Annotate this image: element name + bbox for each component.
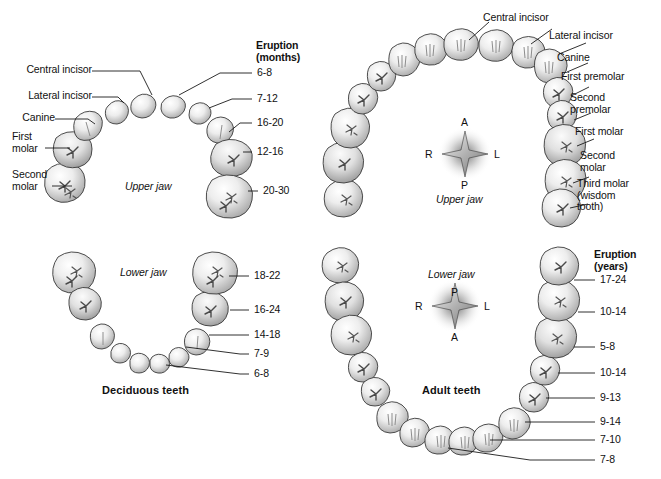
tooth-deciduous-upper-right-second-molar [206, 175, 252, 218]
deciduous-upper-label-first-molar: First molar [12, 131, 72, 154]
deciduous-upper-label-canine: Canine [0, 112, 55, 124]
tooth-adult-upper-left-canine [389, 43, 420, 76]
adult-upper-label-canine: Canine [557, 52, 590, 64]
tooth-adult-lower-left-first-molar [331, 315, 372, 355]
deciduous-lower-eruption-value-1: 18-22 [254, 270, 280, 282]
tooth-adult-lower-left-second-molar [325, 282, 364, 321]
tooth-adult-upper-left-lateral-incisor [415, 34, 447, 65]
compass-upper-left-label: L [494, 148, 500, 160]
adult-upper-leaders [469, 22, 594, 208]
compass-lower-left-label: L [484, 300, 490, 312]
deciduous-upper-label-second-molar: Second molar [12, 169, 74, 192]
adult-eruption-header-line2: (years) [594, 261, 628, 273]
tooth-adult-lower-right-central-incisor [449, 427, 478, 455]
tooth-deciduous-upper-left-lateral-incisor [105, 101, 128, 124]
tooth-deciduous-upper-left-central-incisor [131, 94, 156, 118]
deciduous-upper-arch [45, 94, 253, 218]
tooth-deciduous-lower-left-canine [90, 324, 114, 349]
tooth-adult-lower-right-lateral-incisor [473, 424, 503, 452]
tooth-deciduous-lower-right-lateral-incisor [169, 348, 189, 368]
deciduous-upper-eruption-value-2: 7-12 [257, 93, 278, 105]
tooth-adult-lower-right-first-molar [535, 316, 577, 358]
tooth-adult-lower-left-second-premolar [348, 352, 377, 382]
tooth-adult-upper-right-lateral-incisor [512, 37, 545, 69]
tooth-eruption-figure: Central incisor Lateral incisor Canine F… [0, 0, 661, 479]
compass-lower-posterior-label: P [451, 286, 458, 298]
tooth-adult-lower-left-central-incisor [425, 426, 454, 454]
tooth-deciduous-lower-left-central-incisor [130, 353, 150, 373]
tooth-adult-lower-left-first-premolar [361, 377, 389, 406]
deciduous-lower-leaders [166, 276, 249, 374]
tooth-deciduous-lower-right-canine [184, 329, 209, 355]
adult-lower-leaders [448, 280, 595, 460]
tooth-adult-upper-right-third-molar [542, 189, 581, 227]
adult-upper-label-lateral-incisor: Lateral incisor [549, 30, 613, 42]
tooth-deciduous-lower-right-second-molar [193, 252, 238, 294]
adult-lower-eruption-value-4: 10-14 [600, 367, 626, 379]
adult-lower-eruption-value-2: 10-14 [600, 306, 626, 318]
adult-upper-label-first-premolar: First premolar [561, 71, 624, 83]
deciduous-upper-eruption-value-1: 6-8 [257, 67, 272, 79]
deciduous-eruption-header-line2: (months) [256, 52, 300, 64]
adult-lower-eruption-value-5: 9-13 [600, 392, 621, 404]
adult-lower-eruption-value-7: 7-10 [600, 434, 621, 446]
adult-lower-eruption-value-8: 7-8 [600, 454, 615, 466]
deciduous-upper-eruption-value-3: 16-20 [257, 117, 283, 129]
deciduous-lower-eruption-value-3: 14-18 [254, 329, 280, 341]
adult-upper-label-first-molar: First molar [575, 126, 623, 138]
tooth-deciduous-upper-right-lateral-incisor [189, 103, 211, 124]
tooth-deciduous-lower-right-central-incisor [150, 354, 170, 373]
tooth-deciduous-upper-right-canine [207, 117, 234, 143]
deciduous-upper-label-central-incisor: Central incisor [0, 64, 92, 76]
adult-lower-eruption-value-1: 17-24 [600, 274, 626, 286]
tooth-adult-upper-left-first-premolar [367, 61, 395, 91]
tooth-adult-lower-left-canine [377, 402, 408, 433]
adult-lower-eruption-value-3: 5-8 [600, 341, 615, 353]
compass-upper-posterior-label: P [461, 179, 468, 191]
tooth-adult-lower-right-second-molar [538, 279, 580, 321]
tooth-deciduous-upper-left-canine [74, 111, 103, 140]
deciduous-upper-eruption-value-5: 20-30 [263, 185, 289, 197]
tooth-adult-lower-right-third-molar [540, 247, 579, 285]
deciduous-upper-eruption-value-4: 12-16 [257, 146, 283, 158]
tooth-deciduous-upper-right-first-molar [211, 139, 253, 176]
adult-eruption-header-line1: Eruption [594, 249, 636, 261]
tooth-adult-upper-left-third-molar [324, 179, 362, 217]
tooth-adult-upper-left-central-incisor [444, 29, 479, 61]
tooth-adult-upper-right-central-incisor [479, 30, 514, 62]
adult-lower-eruption-value-6: 9-14 [600, 416, 621, 428]
tooth-adult-lower-right-first-premolar [519, 382, 548, 412]
deciduous-upper-label-lateral-incisor: Lateral incisor [0, 90, 92, 102]
tooth-deciduous-lower-left-second-molar [53, 252, 96, 293]
tooth-adult-upper-left-second-molar [323, 142, 364, 183]
deciduous-lower-eruption-value-5: 6-8 [254, 368, 269, 380]
adult-teeth-caption: Adult teeth [422, 384, 481, 396]
deciduous-upper-jaw-label: Upper jaw [125, 181, 171, 193]
tooth-deciduous-lower-right-first-molar [192, 291, 228, 326]
tooth-adult-lower-left-third-molar [322, 248, 359, 283]
tooth-deciduous-upper-right-central-incisor [161, 96, 186, 118]
deciduous-eruption-header-line1: Eruption [256, 40, 298, 52]
adult-upper-jaw-label: Upper jaw [436, 194, 482, 206]
adult-upper-label-second-premolar: Second premolar [570, 92, 655, 115]
tooth-adult-upper-left-first-molar [331, 108, 370, 148]
compass-lower-right-label: R [415, 300, 423, 312]
deciduous-teeth-caption: Deciduous teeth [102, 384, 189, 396]
deciduous-lower-eruption-value-4: 7-9 [254, 348, 269, 360]
tooth-adult-upper-left-second-premolar [348, 83, 377, 114]
adult-upper-label-central-incisor: Central incisor [483, 12, 549, 24]
tooth-adult-lower-right-canine [499, 408, 530, 439]
deciduous-lower-jaw-label: Lower jaw [120, 267, 166, 279]
compass-lower-anterior-label: A [451, 331, 458, 343]
compass-upper-anterior-label: A [461, 116, 468, 128]
tooth-deciduous-lower-left-first-molar [69, 287, 101, 320]
compass-upper-right-label: R [425, 148, 433, 160]
tooth-deciduous-lower-left-lateral-incisor [111, 343, 131, 363]
compass-rose-upper [438, 127, 492, 181]
adult-upper-label-third-molar: Third molar (wisdom tooth) [577, 178, 659, 213]
tooth-adult-lower-left-lateral-incisor [400, 418, 429, 447]
tooth-adult-lower-right-second-premolar [530, 355, 559, 385]
deciduous-lower-eruption-value-2: 16-24 [254, 304, 280, 316]
adult-lower-jaw-label: Lower jaw [428, 269, 474, 281]
adult-upper-label-second-molar: Second molar [580, 150, 658, 173]
